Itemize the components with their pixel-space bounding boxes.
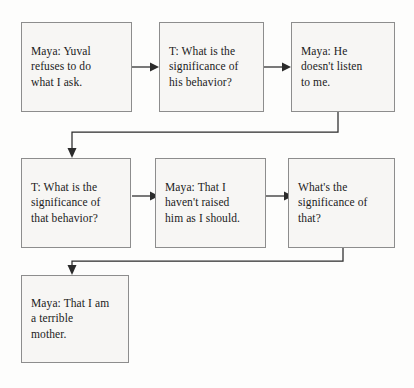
flowchart-canvas: Maya: Yuval refuses to do what I ask. T:… <box>0 0 414 388</box>
flow-node-n6[interactable]: What's the significance of that? <box>288 158 395 248</box>
flow-node-n5-label: Maya: That I haven't raised him as I sho… <box>156 180 249 227</box>
flow-node-n2[interactable]: T: What is the significance of his behav… <box>159 22 264 112</box>
flow-node-n7-label: Maya: That I am a terrible mother. <box>22 296 118 343</box>
flow-node-n3-label: Maya: He doesn't listen to me. <box>292 44 371 91</box>
flow-node-n1-label: Maya: Yuval refuses to do what I ask. <box>22 44 100 91</box>
flow-node-n7[interactable]: Maya: That I am a terrible mother. <box>21 275 129 363</box>
flow-node-n4-label: T: What is the significance of that beha… <box>22 180 110 227</box>
edge-n1-n2 <box>132 63 159 72</box>
flow-node-n3[interactable]: Maya: He doesn't listen to me. <box>291 22 395 112</box>
flow-node-n5[interactable]: Maya: That I haven't raised him as I sho… <box>155 158 266 248</box>
edge-n3-n4 <box>68 112 339 158</box>
flow-node-n6-label: What's the significance of that? <box>289 180 377 227</box>
edge-n2-n3 <box>264 63 291 72</box>
flow-node-n4[interactable]: T: What is the significance of that beha… <box>21 158 131 248</box>
flow-node-n1[interactable]: Maya: Yuval refuses to do what I ask. <box>21 22 132 112</box>
flow-node-n2-label: T: What is the significance of his behav… <box>160 44 248 91</box>
